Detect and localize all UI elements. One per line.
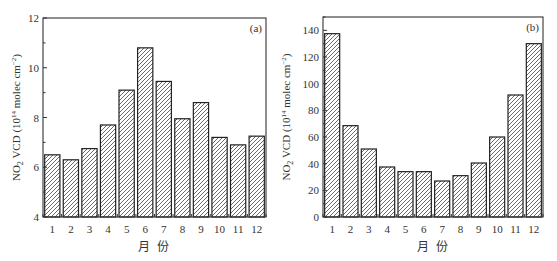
bar-month-2 bbox=[343, 126, 358, 217]
x-tick-label: 8 bbox=[180, 223, 186, 235]
x-tick-label: 6 bbox=[142, 223, 148, 235]
y-tick-label: 8 bbox=[34, 112, 40, 124]
y-tick-label: 80 bbox=[308, 104, 320, 116]
bar-month-11 bbox=[231, 145, 246, 217]
x-tick-label: 8 bbox=[458, 223, 464, 235]
x-tick-label: 11 bbox=[233, 223, 244, 235]
bar-month-1 bbox=[45, 155, 60, 217]
x-tick-label: 9 bbox=[198, 223, 204, 235]
x-tick-label: 4 bbox=[105, 223, 111, 235]
bar-month-11 bbox=[508, 95, 523, 217]
x-tick-label: 10 bbox=[214, 223, 226, 235]
x-tick-label: 11 bbox=[510, 223, 521, 235]
y-tick-label: 20 bbox=[308, 184, 320, 196]
bar-month-1 bbox=[325, 34, 340, 217]
y-tick-label: 4 bbox=[34, 211, 40, 223]
bar-month-6 bbox=[416, 172, 431, 217]
x-tick-label: 5 bbox=[403, 223, 409, 235]
bar-month-2 bbox=[63, 160, 78, 217]
bar-month-5 bbox=[119, 90, 134, 217]
bar-month-8 bbox=[175, 119, 190, 217]
y-axis-label: NO2 VCD (1014 molec cm−2) bbox=[10, 54, 25, 181]
bar-month-4 bbox=[380, 167, 395, 217]
x-tick-label: 12 bbox=[528, 223, 539, 235]
bar-month-4 bbox=[100, 125, 115, 217]
x-tick-label: 2 bbox=[68, 223, 74, 235]
y-axis-label: NO2 VCD (1014 molec cm−2) bbox=[280, 53, 295, 180]
y-tick-label: 6 bbox=[34, 161, 40, 173]
panel-label: (b) bbox=[526, 21, 539, 34]
y-tick-label: 60 bbox=[308, 131, 320, 143]
bar-month-10 bbox=[212, 137, 227, 217]
bar-month-9 bbox=[471, 163, 486, 217]
x-tick-label: 3 bbox=[87, 223, 93, 235]
x-axis-label: 月 份 bbox=[417, 240, 450, 254]
x-tick-label: 4 bbox=[384, 223, 390, 235]
x-axis-label: 月 份 bbox=[138, 240, 171, 254]
y-tick-label: 40 bbox=[308, 158, 320, 170]
plot-area-b: 123456789101112020406080100120140(b)月 份N… bbox=[280, 17, 543, 254]
y-tick-label: 120 bbox=[303, 51, 320, 63]
x-tick-label: 12 bbox=[251, 223, 262, 235]
x-tick-label: 1 bbox=[329, 223, 335, 235]
chart-a: 1234567891011124681012(a)月 份NO2 VCD (101… bbox=[0, 0, 278, 261]
bar-month-3 bbox=[361, 149, 376, 217]
x-tick-label: 5 bbox=[124, 223, 130, 235]
x-tick-label: 9 bbox=[476, 223, 482, 235]
bar-month-12 bbox=[526, 44, 541, 217]
y-tick-label: 10 bbox=[28, 62, 40, 74]
bar-month-7 bbox=[156, 81, 171, 217]
bar-month-5 bbox=[398, 172, 413, 217]
bar-month-3 bbox=[82, 149, 97, 217]
bar-month-10 bbox=[490, 137, 505, 217]
y-tick-label: 12 bbox=[28, 12, 39, 24]
panel-label: (a) bbox=[250, 22, 263, 35]
plot-area-a: 1234567891011124681012(a)月 份NO2 VCD (101… bbox=[10, 12, 266, 254]
x-tick-label: 7 bbox=[439, 223, 445, 235]
x-tick-label: 3 bbox=[366, 223, 372, 235]
y-tick-label: 100 bbox=[303, 78, 320, 90]
y-tick-label: 0 bbox=[314, 211, 320, 223]
x-tick-label: 2 bbox=[348, 223, 354, 235]
y-tick-label: 140 bbox=[303, 24, 320, 36]
x-tick-label: 6 bbox=[421, 223, 427, 235]
bar-month-12 bbox=[249, 136, 264, 217]
bar-month-7 bbox=[435, 181, 450, 217]
x-tick-label: 10 bbox=[492, 223, 504, 235]
x-tick-label: 1 bbox=[50, 223, 56, 235]
chart-b: 123456789101112020406080100120140(b)月 份N… bbox=[278, 0, 557, 261]
bar-month-8 bbox=[453, 176, 468, 217]
bar-month-6 bbox=[138, 48, 153, 217]
bar-month-9 bbox=[193, 103, 208, 217]
x-tick-label: 7 bbox=[161, 223, 167, 235]
